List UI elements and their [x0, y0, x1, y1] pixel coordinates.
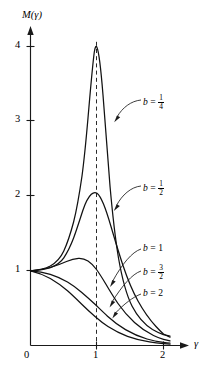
series-label-b-0p25-symbol: b: [143, 97, 148, 107]
x-tick-label-1: 1: [93, 350, 98, 361]
series-label-b-0p5-denominator: 2: [158, 188, 164, 197]
chart-figure: M(γ) γ 1 2 3 4 0 1 2 b = 1 4 b = 1 2 b =…: [0, 0, 209, 366]
leader-arrow-b-0p5: [114, 204, 120, 211]
leader-line-b-0p25: [117, 100, 141, 117]
y-tick-label-4: 4: [15, 40, 20, 51]
series-label-b-0p5-numerator: 1: [158, 180, 164, 188]
y-axis-function-name: M: [22, 9, 31, 20]
series-label-b-2-symbol: b: [143, 288, 148, 298]
series-label-b-1: b = 1: [143, 243, 163, 253]
leader-lines-group: [110, 100, 142, 319]
series-label-b-0p25-numerator: 1: [158, 94, 164, 102]
series-label-b-0p25-denominator: 4: [158, 102, 164, 111]
series-label-b-2: b = 2: [143, 288, 163, 298]
series-label-b-2-value: 2: [158, 288, 163, 298]
x-tick-label-0: 0: [24, 350, 29, 361]
series-label-b-0p5: b = 1 2: [143, 180, 164, 196]
series-label-b-0p5-equals: =: [150, 183, 155, 193]
leader-arrow-b-0p25: [114, 115, 120, 122]
axes-group: [27, 26, 189, 349]
leader-line-b-0p5: [117, 186, 142, 206]
series-label-b-1-equals: =: [150, 243, 155, 253]
leader-arrow-b-2: [112, 312, 118, 319]
series-label-b-1-symbol: b: [143, 243, 148, 253]
series-label-b-0p25: b = 1 4: [143, 94, 164, 110]
y-tick-label-3: 3: [15, 114, 20, 125]
y-axis-arrowhead: [27, 26, 33, 35]
leader-arrow-b-1p5: [110, 301, 116, 308]
x-tick-label-2: 2: [160, 350, 165, 361]
series-label-b-1p5: b = 3 2: [143, 264, 164, 280]
curve-b-1p5: [31, 271, 171, 343]
series-label-b-1p5-denominator: 2: [158, 272, 164, 281]
series-label-b-0p5-fraction: 1 2: [158, 180, 164, 196]
series-label-b-0p5-symbol: b: [143, 183, 148, 193]
plot-canvas: [0, 0, 209, 366]
y-tick-label-1: 1: [15, 264, 20, 275]
series-label-b-1p5-fraction: 3 2: [158, 264, 164, 280]
x-axis-label: γ: [194, 339, 198, 350]
series-label-b-1p5-symbol: b: [143, 267, 148, 277]
leader-arrow-b-1: [110, 280, 116, 287]
y-axis-paren-close: ): [38, 9, 42, 20]
x-axis-arrowhead: [180, 342, 189, 348]
series-label-b-0p25-fraction: 1 4: [158, 94, 164, 110]
y-axis-label: M(γ): [22, 10, 42, 21]
series-label-b-2-equals: =: [150, 288, 155, 298]
series-label-b-0p25-equals: =: [150, 97, 155, 107]
series-label-b-1-value: 1: [158, 243, 163, 253]
y-tick-label-2: 2: [15, 189, 20, 200]
series-label-b-1p5-equals: =: [150, 267, 155, 277]
series-label-b-1p5-numerator: 3: [158, 264, 164, 272]
